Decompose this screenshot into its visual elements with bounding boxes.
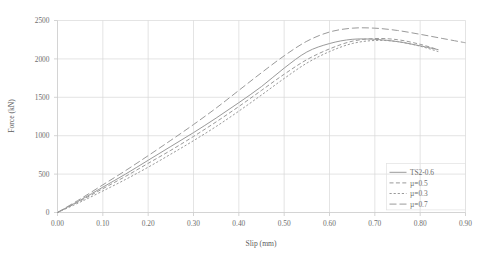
series-line-ts2-0-6 xyxy=(58,39,439,213)
x-tick-label: 0.60 xyxy=(323,219,336,228)
legend-item-label: TS2-0.6 xyxy=(410,168,434,177)
y-tick-label: 0 xyxy=(46,208,50,217)
y-tick-label: 2500 xyxy=(35,16,50,25)
y-gridlines xyxy=(58,21,466,213)
x-tick-label: 0.20 xyxy=(142,219,155,228)
series-line--0-5 xyxy=(58,38,439,212)
x-tick-labels: 0.000.100.200.300.400.500.600.700.800.90 xyxy=(51,213,472,228)
x-tick-label: 0.80 xyxy=(414,219,427,228)
y-axis-title: Force (kN) xyxy=(7,99,16,133)
force-slip-line-chart: 05001000150020002500 0.000.100.200.300.4… xyxy=(0,0,490,263)
series-line--0-7 xyxy=(58,28,466,213)
x-tick-label: 0.90 xyxy=(459,219,472,228)
x-tick-label: 0.30 xyxy=(187,219,200,228)
y-tick-labels: 05001000150020002500 xyxy=(35,16,58,217)
chart-legend: TS2-0.6µ=0.5µ=0.3µ=0.7 xyxy=(387,164,466,210)
legend-item-label: µ=0.7 xyxy=(410,200,428,209)
x-gridlines xyxy=(58,21,466,213)
x-tick-label: 0.70 xyxy=(368,219,381,228)
series-line--0-3 xyxy=(58,40,439,212)
y-tick-label: 1000 xyxy=(35,131,50,140)
legend-item-label: µ=0.5 xyxy=(410,179,428,188)
x-tick-label: 0.50 xyxy=(278,219,291,228)
y-tick-label: 2000 xyxy=(35,55,50,64)
x-tick-label: 0.40 xyxy=(232,219,245,228)
x-tick-label: 0.10 xyxy=(96,219,109,228)
data-series-group xyxy=(58,28,466,213)
legend-item-label: µ=0.3 xyxy=(410,189,428,198)
x-tick-label: 0.00 xyxy=(51,219,64,228)
x-axis-title: Slip (mm) xyxy=(245,239,276,248)
chart-container: 05001000150020002500 0.000.100.200.300.4… xyxy=(0,0,490,263)
y-tick-label: 500 xyxy=(38,170,49,179)
y-tick-label: 1500 xyxy=(35,93,50,102)
